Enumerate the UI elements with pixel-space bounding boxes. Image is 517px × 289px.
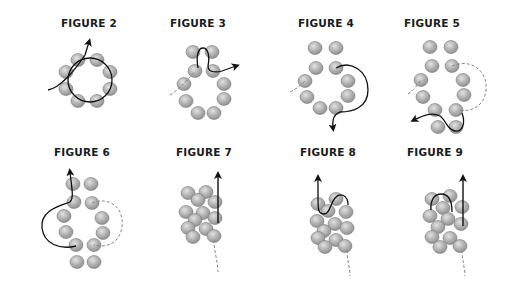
figure-2-diagram bbox=[48, 42, 117, 108]
figure-7-diagram bbox=[179, 175, 222, 272]
thread-loop bbox=[68, 58, 112, 102]
figure-3-diagram bbox=[170, 46, 236, 120]
beadwork-diagrams bbox=[0, 0, 517, 289]
figure-6-diagram bbox=[42, 172, 122, 269]
figure-5-diagram bbox=[408, 41, 486, 134]
figure-4-diagram bbox=[290, 42, 368, 129]
figure-9-diagram bbox=[423, 178, 469, 276]
figure-8-diagram bbox=[310, 178, 354, 276]
